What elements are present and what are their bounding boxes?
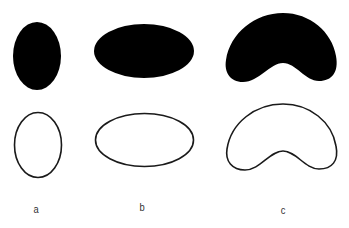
figure-canvas: a b c bbox=[0, 0, 349, 228]
label-a: a bbox=[33, 204, 38, 215]
outline-kidney-c bbox=[227, 104, 337, 170]
outline-ellipse-a bbox=[15, 113, 62, 178]
outline-ellipse-b bbox=[96, 114, 194, 167]
filled-ellipse-b bbox=[94, 24, 194, 78]
filled-ellipse-a bbox=[13, 22, 61, 90]
shapes-figure bbox=[0, 0, 349, 228]
label-c: c bbox=[281, 205, 286, 216]
label-b: b bbox=[139, 202, 144, 213]
filled-kidney-c bbox=[226, 13, 337, 82]
